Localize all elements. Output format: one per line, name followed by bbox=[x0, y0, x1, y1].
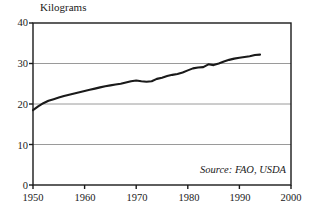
gridlines bbox=[33, 64, 291, 145]
axis-ticks bbox=[29, 23, 291, 189]
data-series-line bbox=[33, 55, 260, 110]
plot-area bbox=[0, 0, 312, 216]
chart-container: Kilograms 40 30 20 10 0 1950 1960 1970 1… bbox=[0, 0, 312, 216]
